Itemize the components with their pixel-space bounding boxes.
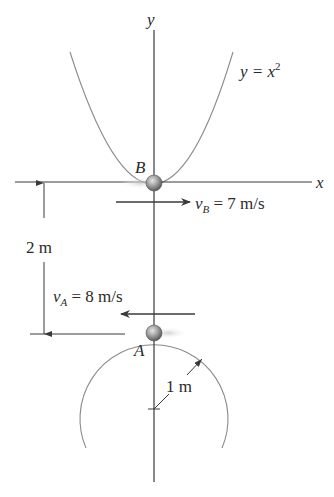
radius-label: 1 m — [166, 377, 192, 396]
curve-equation: y = x2 — [238, 60, 281, 81]
kinematics-diagram: y x y = x2 B A vB = 7 m/s vA = 8 m/s 2 m… — [0, 0, 334, 497]
particle-A — [146, 325, 162, 341]
particle-B-label: B — [135, 158, 146, 177]
y-axis-label: y — [145, 10, 155, 29]
particle-B — [146, 175, 162, 191]
x-axis-label: x — [315, 173, 324, 192]
velocity-A-label: vA = 8 m/s — [53, 287, 123, 308]
separation-label: 2 m — [26, 238, 52, 257]
radius-line-lower — [154, 394, 169, 409]
parabola-curve — [70, 52, 233, 184]
particle-A-label: A — [133, 341, 145, 360]
velocity-B-label: vB = 7 m/s — [195, 194, 265, 215]
radius-line-upper — [187, 359, 202, 375]
